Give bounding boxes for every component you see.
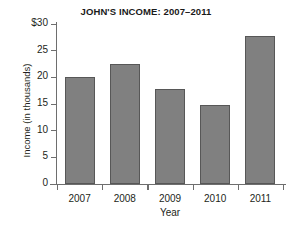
y-tick-label: 10	[0, 124, 48, 135]
y-tick-mark	[51, 157, 57, 158]
y-tick-label: 15	[0, 97, 48, 108]
bar-2007	[65, 77, 95, 184]
y-tick-label: 5	[0, 150, 48, 161]
y-tick-mark	[51, 130, 57, 131]
y-axis-label: Income (in thousands)	[21, 36, 32, 186]
chart-title: JOHN'S INCOME: 2007–2011	[0, 6, 292, 17]
x-tick-mark	[147, 184, 148, 190]
y-tick-mark	[51, 24, 57, 25]
y-tick-mark	[51, 77, 57, 78]
x-tick-label: 2011	[237, 193, 283, 204]
y-tick-label: $30	[0, 17, 48, 28]
x-tick-mark	[102, 184, 103, 190]
x-tick-mark	[57, 184, 58, 190]
x-axis-label: Year	[57, 207, 283, 218]
bar-2010	[200, 105, 230, 184]
y-tick-label: 20	[0, 70, 48, 81]
x-tick-label: 2007	[57, 193, 103, 204]
bar-2011	[245, 36, 275, 184]
y-tick-mark	[51, 104, 57, 105]
bar-2008	[110, 64, 140, 184]
x-tick-label: 2008	[102, 193, 148, 204]
x-tick-label: 2010	[192, 193, 238, 204]
bar-2009	[155, 89, 185, 184]
x-tick-mark	[238, 184, 239, 190]
y-tick-label: 25	[0, 44, 48, 55]
x-tick-mark	[283, 184, 284, 190]
y-tick-label: 0	[0, 177, 48, 188]
x-tick-mark	[193, 184, 194, 190]
y-tick-mark	[51, 50, 57, 51]
income-bar-chart: JOHN'S INCOME: 2007–2011 Income (in thou…	[0, 0, 292, 229]
x-tick-label: 2009	[147, 193, 193, 204]
